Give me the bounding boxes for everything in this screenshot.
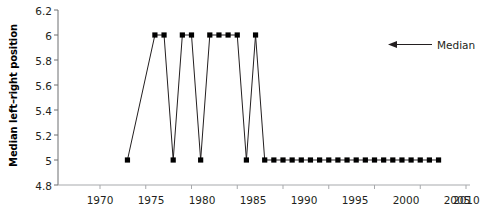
y-tick-marks <box>54 10 58 185</box>
x-tick-marks <box>100 185 466 189</box>
legend-arrow-icon <box>388 41 432 48</box>
series-line-median <box>127 35 438 160</box>
